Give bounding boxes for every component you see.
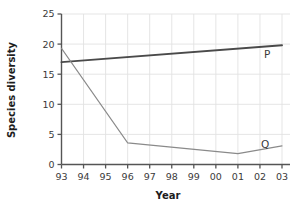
y-axis-tick-label: 25 xyxy=(42,8,54,19)
x-axis-tick-label: 98 xyxy=(166,171,178,182)
x-axis-tick-label: 97 xyxy=(144,171,156,182)
x-axis-tick-label: 01 xyxy=(232,171,244,182)
series-label-p: P xyxy=(264,48,270,60)
chart-container: 0510152025 9394959697989900010203 P Q Ye… xyxy=(0,0,300,210)
y-axis-title: Species diversity xyxy=(6,41,17,138)
series-label-q: Q xyxy=(261,138,269,150)
x-axis-tick-label: 96 xyxy=(122,171,134,182)
x-axis-tick-label: 94 xyxy=(78,171,90,182)
x-axis-tick-label: 93 xyxy=(55,171,67,182)
x-axis-title: Year xyxy=(155,190,181,201)
y-axis-tick-label: 20 xyxy=(42,39,54,50)
x-axis-tick-label: 00 xyxy=(210,171,222,182)
x-axis-tick-label: 99 xyxy=(188,171,200,182)
y-axis-tick-label: 0 xyxy=(48,159,54,170)
y-axis-tick-label: 15 xyxy=(42,69,54,80)
x-axis-tick-label: 03 xyxy=(276,171,288,182)
y-axis-tick-label: 10 xyxy=(42,99,54,110)
x-axis-tick-label: 02 xyxy=(254,171,266,182)
y-axis-tick-label: 5 xyxy=(48,129,54,140)
x-axis-tick-label: 95 xyxy=(100,171,112,182)
species-diversity-line-chart: 0510152025 9394959697989900010203 P Q Ye… xyxy=(0,0,300,210)
